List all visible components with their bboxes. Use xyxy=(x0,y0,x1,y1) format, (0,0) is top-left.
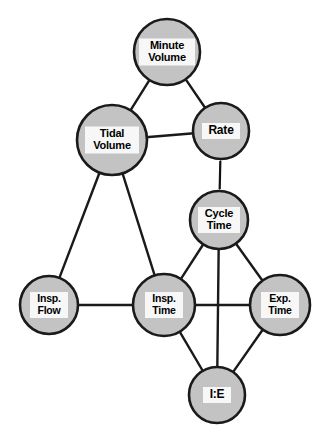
node-label-cycle-time: Cycle Time xyxy=(198,207,240,233)
edge-tidal-volume-insp-time xyxy=(122,172,155,276)
edge-insp-time-i-e xyxy=(179,331,203,372)
diagram-canvas: Minute VolumeTidal VolumeRateCycle TimeI… xyxy=(0,0,325,432)
nodes-layer xyxy=(20,19,310,423)
edge-cycle-time-i-e xyxy=(217,248,218,368)
node-label-exp-time: Exp. Time xyxy=(261,292,299,318)
edge-rate-cycle-time xyxy=(220,161,221,189)
node-label-tidal-volume: Tidal Volume xyxy=(85,127,139,154)
node-label-i-e: I:E xyxy=(203,387,231,403)
node-label-rate: Rate xyxy=(202,123,240,139)
edge-cycle-time-insp-time xyxy=(180,244,203,280)
edge-exp-time-i-e xyxy=(232,329,263,373)
edge-tidal-volume-rate xyxy=(146,133,194,137)
node-label-insp-time: Insp. Time xyxy=(145,292,183,318)
edge-tidal-volume-insp-flow xyxy=(59,172,100,279)
node-label-minute-volume: Minute Volume xyxy=(139,39,195,66)
edge-minute-volume-tidal-volume xyxy=(130,79,150,111)
edge-cycle-time-exp-time xyxy=(235,243,263,282)
node-label-insp-flow: Insp. Flow xyxy=(30,292,68,318)
edge-minute-volume-rate xyxy=(185,78,206,108)
